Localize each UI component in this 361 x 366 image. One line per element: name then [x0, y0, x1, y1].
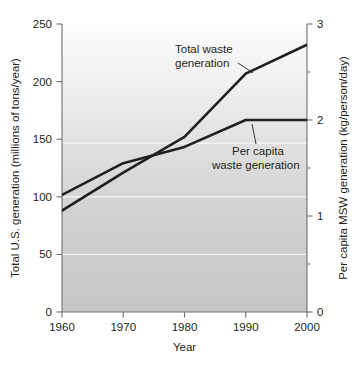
right-axis-title: Per capita MSW generation (kg/person/day… — [337, 56, 349, 280]
x-tick-label-2000: 2000 — [294, 321, 320, 333]
right-tick-label-3: 3 — [317, 18, 323, 30]
left-axis-title: Total U.S. generation (millions of tons/… — [9, 58, 21, 278]
left-tick-label-100: 100 — [33, 191, 52, 203]
right-tick-label-0: 0 — [317, 306, 323, 318]
x-tick-label-1980: 1980 — [172, 321, 198, 333]
x-tick-label-1990: 1990 — [233, 321, 259, 333]
right-tick-label-1: 1 — [317, 210, 323, 222]
waste-generation-line-chart: 250 200 150 100 50 0 Total U.S. generati… — [0, 0, 361, 366]
annotation-per-capita-line1: Per capita — [232, 145, 284, 157]
left-tick-label-0: 0 — [46, 306, 52, 318]
left-tick-label-200: 200 — [33, 76, 52, 88]
annotation-per-capita-line2: waste generation — [211, 159, 300, 171]
chart-figure: 250 200 150 100 50 0 Total U.S. generati… — [0, 0, 361, 366]
right-axis: 3 2 1 0 Per capita MSW generation (kg/pe… — [307, 18, 349, 318]
right-tick-label-2: 2 — [317, 114, 323, 126]
x-tick-label-1970: 1970 — [110, 321, 136, 333]
annotation-total-waste-line1: Total waste — [175, 43, 233, 55]
annotation-total-waste-line2: generation — [175, 57, 229, 69]
left-tick-label-250: 250 — [33, 18, 52, 30]
x-axis: 1960 1970 1980 1990 2000 Year — [49, 312, 320, 353]
left-tick-label-50: 50 — [39, 248, 52, 260]
left-tick-label-150: 150 — [33, 133, 52, 145]
x-axis-title: Year — [173, 341, 196, 353]
left-axis: 250 200 150 100 50 0 Total U.S. generati… — [9, 18, 62, 318]
x-tick-label-1960: 1960 — [49, 321, 75, 333]
